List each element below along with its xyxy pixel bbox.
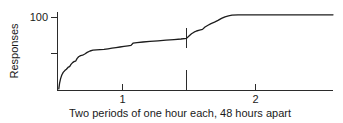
y-tick-label-100: 100: [30, 11, 48, 23]
chart-canvas: 100 1 2 Responses Two periods of one hou…: [0, 0, 343, 123]
x-axis-caption: Two periods of one hour each, 48 hours a…: [69, 107, 291, 119]
cumulative-curve: [59, 15, 333, 89]
x-tick-label-1: 1: [119, 93, 125, 105]
y-axis-title: Responses: [8, 23, 20, 79]
x-tick-label-2: 2: [252, 93, 258, 105]
cumulative-response-chart: 100 1 2 Responses Two periods of one hou…: [0, 0, 343, 123]
